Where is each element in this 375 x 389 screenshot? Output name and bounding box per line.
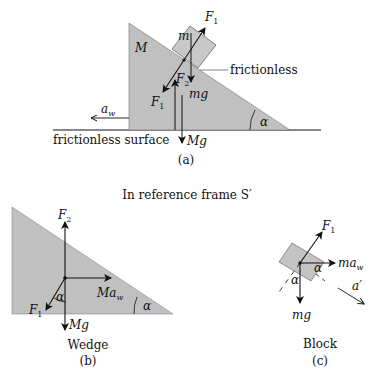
label-alpha-2: α [291,273,299,287]
label-mg: mg [189,87,208,101]
label-alpha-1: α [314,261,322,275]
label-a-prime: a′ [352,279,362,293]
label-frictionless-surface: frictionless surface [53,133,169,147]
figure-c: F1 maw mg α α a′ Block (c) [279,219,364,368]
label-frictionless: frictionless [230,63,298,77]
caption-c: (c) [312,354,328,368]
dashed-line-right [316,274,325,281]
label-Mg: Mg [186,134,207,148]
block-center-dot-c [298,261,301,264]
caption-a: (a) [178,153,195,167]
label-M: M [134,41,148,55]
label-wedge: Wedge [68,338,109,352]
label-F1-c: F1 [321,219,335,235]
label-maw: maw [338,256,364,272]
figure-a: M m F1 F1 F2 mg Mg aw α frictionless fri… [53,10,321,167]
label-F1-top: F1 [204,10,218,26]
label-aw: aw [101,102,115,118]
label-alpha-inner: α [56,290,64,304]
label-F2-b: F2 [57,208,71,224]
label-Mg-b: Mg [68,318,89,332]
label-block: Block [303,337,338,351]
wedge-center-dot [63,276,67,280]
frame-title: In reference frame S′ [122,188,252,202]
diagram-canvas: M m F1 F1 F2 mg Mg aw α frictionless fri… [0,0,375,389]
wedge-b [12,207,173,314]
label-m: m [178,29,189,43]
label-mg-c: mg [292,308,311,322]
label-alpha: α [260,115,268,129]
figure-b: F2 Maw F1 Mg α α Wedge (b) [12,207,173,368]
label-alpha-corner: α [143,299,151,313]
block-center-dot [182,58,185,61]
caption-b: (b) [79,354,96,368]
